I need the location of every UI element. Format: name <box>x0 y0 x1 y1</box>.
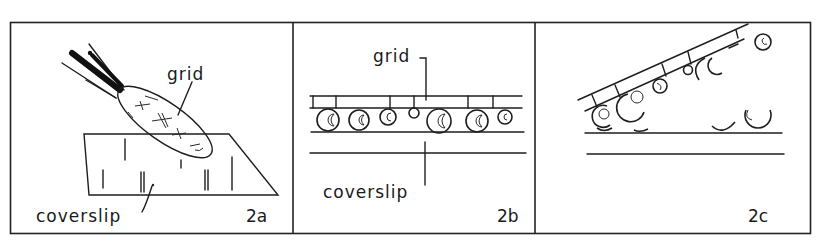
cells <box>317 108 512 133</box>
grid-leader <box>178 82 192 115</box>
grid-bars <box>578 24 748 111</box>
panel-2c: 2c <box>578 24 784 226</box>
figure-2: coverslip grid 2a <box>0 0 824 246</box>
panel-id-2a: 2a <box>246 206 267 226</box>
grid-bars <box>310 96 522 108</box>
panel-id-2b: 2b <box>497 206 519 226</box>
label-coverslip: coverslip <box>323 182 408 202</box>
panel-2a: coverslip grid 2a <box>36 44 278 226</box>
panel-2b: grid coverslip 2b <box>310 46 526 226</box>
label-coverslip: coverslip <box>36 206 121 226</box>
cells <box>592 34 771 131</box>
label-grid: grid <box>167 64 204 84</box>
label-grid: grid <box>373 46 410 66</box>
figure-frame <box>11 23 811 234</box>
panel-id-2c: 2c <box>748 206 768 226</box>
forceps-icon <box>62 44 124 98</box>
grid-leader <box>420 58 426 100</box>
